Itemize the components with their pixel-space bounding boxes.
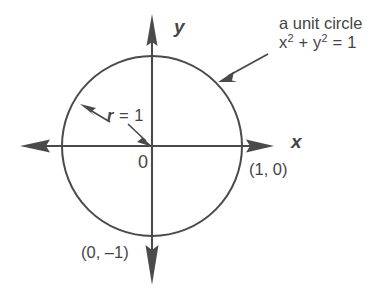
radius-variable: r <box>107 106 114 124</box>
x-axis-arrowhead-left <box>20 140 50 153</box>
radius-arrow-head <box>80 104 96 116</box>
point-label-one-zero: (1, 0) <box>249 160 288 179</box>
equation-y-base: y <box>313 33 321 51</box>
x-axis <box>20 140 274 153</box>
x-axis-label: x <box>291 131 302 153</box>
callout-arrow-to-circle <box>218 54 268 82</box>
equation-equals-one: = 1 <box>328 33 357 51</box>
origin-arrow-shaft <box>128 124 146 141</box>
radius-arrow-to-circle <box>80 104 110 122</box>
point-label-zero-minus-one: (0, –1) <box>81 243 129 262</box>
x-axis-arrowhead-right <box>246 140 274 153</box>
y-axis-arrowhead-top <box>147 14 158 46</box>
origin-arrow <box>128 124 153 147</box>
radius-label: r = 1 <box>107 106 144 125</box>
unit-circle-equation: x2 + y2 = 1 <box>279 33 362 52</box>
y-axis <box>146 14 159 285</box>
unit-circle-figure: y x a unit circle x2 + y2 = 1 r = 1 0 (1… <box>0 0 377 291</box>
y-axis-label: y <box>174 16 185 38</box>
unit-circle-callout: a unit circle x2 + y2 = 1 <box>279 14 362 53</box>
unit-circle-callout-line1: a unit circle <box>279 14 362 33</box>
radius-value: = 1 <box>114 106 144 124</box>
callout-arrow-shaft <box>228 54 268 76</box>
y-axis-arrowhead-bottom <box>146 245 159 285</box>
origin-label: 0 <box>138 152 148 173</box>
equation-plus-operator: + <box>294 33 313 51</box>
